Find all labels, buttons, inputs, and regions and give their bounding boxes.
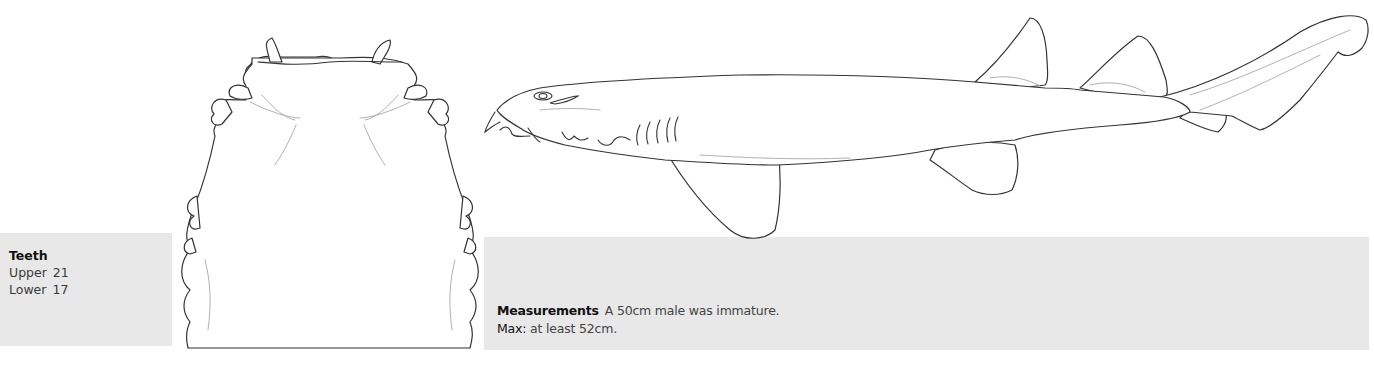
shark-lateral-illustration	[485, 16, 1368, 238]
illustrations-canvas	[0, 0, 1374, 365]
shark-head-ventral-illustration	[182, 38, 479, 348]
